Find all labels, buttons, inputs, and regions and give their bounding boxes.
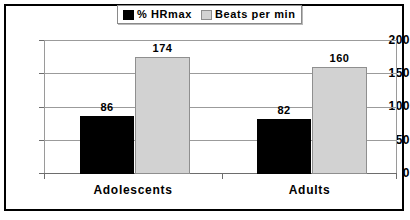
legend-label-beats: Beats per min: [215, 9, 296, 20]
bar-adolescents-beats: [135, 57, 190, 174]
gridline-200: [44, 40, 397, 41]
bar-value-adolescents-hrmax: 86: [80, 102, 134, 113]
bar-chart-figure: % HRmax Beats per min 200 150 100 50 0 8…: [0, 0, 410, 220]
bar-adults-beats: [312, 67, 367, 174]
plot-area: 86 174 82 160: [44, 40, 397, 174]
bar-value-adults-beats: 160: [312, 53, 367, 64]
legend-entry-hrmax: % HRmax: [123, 9, 192, 20]
x-axis-label-adolescents: Adolescents: [44, 184, 222, 197]
y-tick-150: [39, 73, 44, 74]
x-tick-mid: [222, 173, 223, 179]
legend-entry-beats: Beats per min: [201, 9, 296, 20]
gray-square-icon: [201, 10, 212, 20]
y-tick-50: [39, 140, 44, 141]
black-square-icon: [123, 10, 134, 20]
x-axis-label-adults: Adults: [222, 184, 397, 197]
bar-adolescents-hrmax: [80, 116, 134, 174]
chart-legend: % HRmax Beats per min: [117, 5, 302, 24]
x-tick-start: [44, 173, 45, 179]
bar-adults-hrmax: [257, 119, 311, 174]
bar-value-adolescents-beats: 174: [135, 43, 190, 54]
x-tick-end: [396, 173, 397, 179]
y-tick-100: [39, 107, 44, 108]
legend-label-hrmax: % HRmax: [137, 9, 192, 20]
bar-value-adults-hrmax: 82: [257, 105, 311, 116]
y-tick-200: [39, 40, 44, 41]
